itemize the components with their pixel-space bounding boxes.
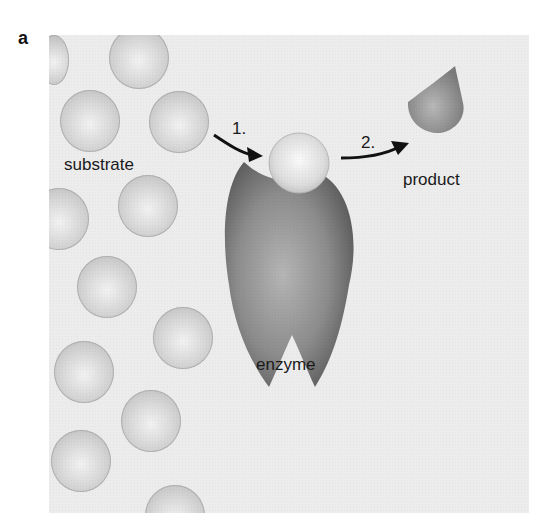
panel-label: a [18, 28, 28, 49]
arrow-step-1-head [247, 147, 263, 162]
enzyme-label: enzyme [256, 355, 316, 375]
diagram-panel: 1. 2. substrate product enzyme [49, 35, 529, 513]
product-label: product [403, 170, 460, 190]
step-1-label: 1. [232, 119, 246, 139]
enzyme-shape [225, 162, 354, 387]
product-shape [408, 66, 464, 133]
bound-substrate-sphere [269, 133, 329, 193]
diagram-graphics [49, 35, 529, 513]
substrate-label: substrate [64, 155, 134, 175]
step-2-label: 2. [361, 133, 375, 153]
